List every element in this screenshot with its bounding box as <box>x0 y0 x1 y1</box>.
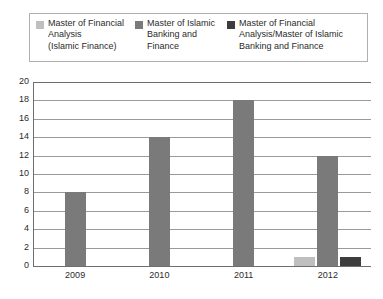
legend-entry-master-islamic-banking: Master of Islamic Banking and Finance <box>134 18 226 52</box>
bar-series-3-2012 <box>340 257 361 266</box>
y-axis-tick-label: 16 <box>3 114 29 123</box>
y-axis-tick-label: 12 <box>3 151 29 160</box>
bars-layer <box>33 82 370 266</box>
y-axis-tick-label: 8 <box>3 187 29 196</box>
bar-series-2-2009 <box>65 192 86 266</box>
legend-entry-combined-degree: Master of Financial Analysis/Master of I… <box>226 18 366 52</box>
bar-group-2009 <box>33 82 117 266</box>
legend-label-series-3: Master of Financial Analysis/Master of I… <box>239 18 343 52</box>
bar-chart-figure: Master of Financial Analysis (Islamic Fi… <box>0 0 383 299</box>
y-axis-tick-label: 4 <box>3 224 29 233</box>
y-axis-tick-label: 18 <box>3 95 29 104</box>
x-axis-tick-label-2011: 2011 <box>202 270 286 280</box>
bar-group-2011 <box>202 82 286 266</box>
bar-series-2-2010 <box>149 137 170 266</box>
bar-series-2-2012 <box>317 156 338 266</box>
x-axis-tick-labels: 2009201020112012 <box>33 270 370 280</box>
bar-series-2-2011 <box>233 100 254 266</box>
x-axis-tick-label-2009: 2009 <box>33 270 117 280</box>
y-axis-tick-label: 6 <box>3 206 29 215</box>
chart-legend: Master of Financial Analysis (Islamic Fi… <box>29 13 368 62</box>
legend-swatch-icon-series-2 <box>135 21 143 29</box>
x-axis-tick-label-2012: 2012 <box>286 270 370 280</box>
legend-label-series-1: Master of Financial Analysis (Islamic Fi… <box>48 18 124 52</box>
y-axis-tick-labels: 20181614121086420 <box>0 82 29 266</box>
bar-group-2010 <box>117 82 201 266</box>
y-axis-tick-label: 10 <box>3 169 29 178</box>
legend-swatch-icon-series-3 <box>227 21 235 29</box>
y-axis-tick-label: 14 <box>3 132 29 141</box>
legend-entry-master-financial-analysis: Master of Financial Analysis (Islamic Fi… <box>30 18 134 52</box>
x-axis-tick-label-2010: 2010 <box>117 270 201 280</box>
bar-group-2012 <box>286 82 370 266</box>
y-axis-tick-label: 2 <box>3 243 29 252</box>
y-axis-tick-label: 0 <box>3 261 29 270</box>
legend-swatch-icon-series-1 <box>36 21 44 29</box>
legend-label-series-2: Master of Islamic Banking and Finance <box>147 18 215 52</box>
bar-series-1-2012 <box>294 257 315 266</box>
y-axis-tick-label: 20 <box>3 77 29 86</box>
